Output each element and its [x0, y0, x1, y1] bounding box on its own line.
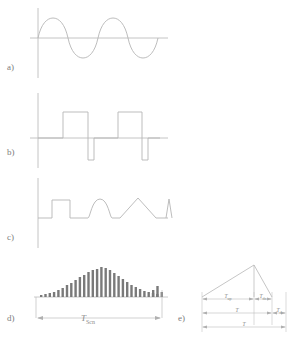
panel-e-arrow-period-right [267, 312, 272, 315]
panel-label-e: e) [178, 313, 185, 323]
panel-d-bar [96, 269, 98, 297]
panel-d-bar-series [40, 267, 159, 297]
panel-d-bar [79, 277, 81, 297]
panel-e-label-t-dn: Tdn [259, 293, 266, 301]
panel-d-trailing-bar-group [152, 286, 163, 297]
panel-c-spike [166, 199, 172, 218]
panel-d-bar [113, 273, 115, 297]
panel-e-label-t-total: T [242, 321, 246, 327]
panel-label-d: d) [7, 313, 15, 323]
panel-e-arrow-total-left [202, 326, 207, 329]
panel-d-bar [70, 283, 72, 297]
panel-d-trailing-bar [152, 290, 154, 297]
panel-e-label-t-up: Tup [224, 293, 231, 301]
panel-b-group [30, 93, 168, 168]
panel-d-dimension-symbol: TScn [81, 313, 95, 325]
panel-d-bar [105, 268, 107, 297]
panel-d-bar [62, 288, 64, 297]
panel-c-group [38, 178, 172, 248]
panel-d-trailing-bar [156, 286, 158, 297]
panel-e-group: Tup Tdn T Td [202, 265, 286, 332]
panel-a-group [30, 8, 168, 78]
panel-d-group: TScn [34, 267, 168, 325]
panel-d-bar [53, 292, 55, 297]
panel-d-bar [122, 279, 124, 297]
panel-d-bar [143, 291, 145, 297]
panel-d-bar [87, 272, 89, 297]
panel-d-bar [126, 282, 128, 297]
panel-d-bar [40, 295, 42, 297]
panel-e-label-t-d: Td [276, 307, 281, 315]
waveform-svg-canvas: TScn Tup [0, 0, 296, 339]
panel-d-bar [130, 285, 132, 297]
panel-d-bar [66, 285, 68, 297]
panel-d-bar [139, 289, 141, 297]
panel-d-bar [44, 294, 46, 297]
panel-d-bar [83, 275, 85, 297]
panel-d-bar [74, 280, 76, 297]
panel-e-arrow-down-right [267, 298, 272, 301]
panel-e-arrow-down-left [254, 298, 259, 301]
panel-d-bar [92, 270, 94, 297]
panel-b-pulse-waveform [38, 112, 160, 160]
panel-d-bar [57, 290, 59, 297]
panel-d-bar [109, 270, 111, 297]
panel-d-arrow-right [155, 316, 161, 320]
signal-waveform-figure: TScn Tup [0, 0, 296, 339]
panel-d-bar [117, 276, 119, 297]
panel-label-a: a) [7, 62, 14, 72]
panel-label-b: b) [7, 147, 15, 157]
panel-e-label-t-period: T [235, 307, 239, 313]
panel-e-arrow-total-right [281, 326, 286, 329]
panel-e-arrow-up-right [249, 298, 254, 301]
panel-d-bar [49, 293, 51, 297]
panel-c-mixed-waveform [38, 198, 168, 218]
panel-e-arrow-dead-right [281, 312, 286, 315]
panel-d-bar [135, 287, 137, 297]
panel-e-arrow-period-left [202, 312, 207, 315]
panel-e-arrow-up-left [202, 298, 207, 301]
panel-d-bar [100, 267, 102, 297]
panel-d-bar [148, 292, 150, 297]
panel-label-c: c) [7, 232, 14, 242]
panel-d-arrow-left [37, 316, 43, 320]
